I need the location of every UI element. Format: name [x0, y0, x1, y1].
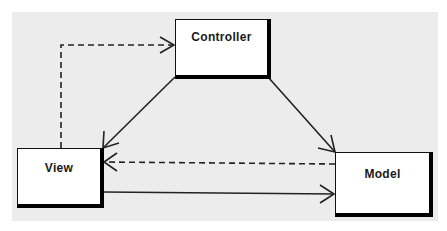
mvc-diagram: Controller View Model	[0, 0, 447, 231]
controller-label: Controller	[176, 30, 267, 44]
edge-view-to-model	[103, 185, 334, 203]
edge-model-to-view	[104, 153, 335, 171]
controller-node: Controller	[175, 19, 271, 79]
model-label: Model	[336, 167, 429, 181]
edge-controller-to-model	[268, 77, 335, 152]
view-node: View	[17, 148, 104, 208]
model-node: Model	[335, 152, 433, 217]
edge-view-to-controller	[61, 37, 174, 148]
view-label: View	[18, 161, 100, 175]
edge-controller-to-view	[103, 77, 175, 148]
